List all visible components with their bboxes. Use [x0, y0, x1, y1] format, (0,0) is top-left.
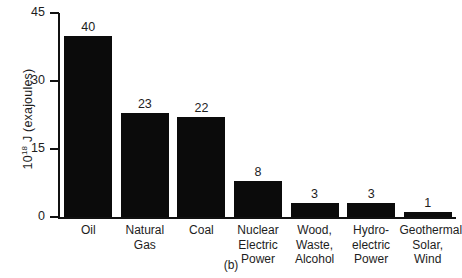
bar-slot: 8	[234, 13, 282, 217]
bar	[404, 212, 452, 217]
y-tick-mark	[50, 216, 59, 218]
bar	[177, 117, 225, 217]
y-tick-mark	[50, 12, 59, 14]
bar-value-label: 40	[64, 20, 112, 34]
bar-series: 4023228331	[60, 13, 456, 217]
category-label-line: Gas	[117, 238, 174, 253]
panel-caption: (b)	[0, 258, 462, 272]
category-label-line: Nuclear	[230, 223, 287, 238]
bar	[347, 203, 395, 217]
category-label-line: electric	[343, 238, 400, 253]
category-label-line: Coal	[173, 223, 230, 238]
category-label-line: Geothermal,	[399, 223, 456, 238]
category-label-line: Solar,	[399, 238, 456, 253]
bar-slot: 3	[291, 13, 339, 217]
bar-value-label: 3	[347, 187, 395, 201]
bar-value-label: 8	[234, 165, 282, 179]
category-label-line: Electric	[230, 238, 287, 253]
bar	[291, 203, 339, 217]
bar-slot: 1	[404, 13, 452, 217]
category-label: Coal	[173, 223, 230, 238]
category-label: Oil	[60, 223, 117, 238]
y-tick-label: 45	[0, 5, 45, 19]
bar	[234, 181, 282, 217]
bar-slot: 22	[177, 13, 225, 217]
category-label-line: Wood,	[286, 223, 343, 238]
y-tick-label: 15	[0, 141, 45, 155]
bar-value-label: 22	[177, 101, 225, 115]
x-axis-line	[58, 217, 456, 219]
bar	[121, 113, 169, 217]
y-axis-label: 1018 J (exajoules)	[21, 39, 35, 199]
energy-consumption-bar-chart: 1018 J (exajoules) 0153045 4023228331 Oi…	[0, 0, 462, 278]
y-tick-label: 30	[0, 73, 45, 87]
bar-value-label: 1	[404, 196, 452, 210]
y-axis-label-prefix: 10	[21, 155, 35, 169]
bar-slot: 3	[347, 13, 395, 217]
category-label-line: Waste,	[286, 238, 343, 253]
category-label: NaturalGas	[117, 223, 174, 252]
bar-value-label: 23	[121, 97, 169, 111]
bar-value-label: 3	[291, 187, 339, 201]
category-label-line: Oil	[60, 223, 117, 238]
y-tick-mark	[50, 148, 59, 150]
y-tick-mark	[50, 80, 59, 82]
bar-slot: 40	[64, 13, 112, 217]
bar	[64, 36, 112, 217]
y-tick-label: 0	[0, 209, 45, 223]
category-label-line: Natural	[117, 223, 174, 238]
bar-slot: 23	[121, 13, 169, 217]
category-label-line: Hydro-	[343, 223, 400, 238]
